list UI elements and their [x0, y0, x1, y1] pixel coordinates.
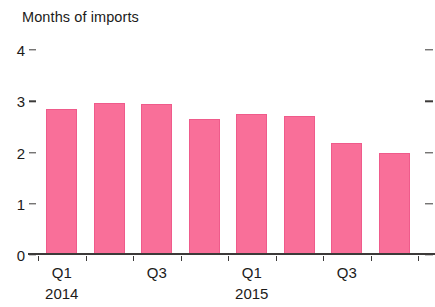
x-axis-year-label: 2014 [45, 285, 78, 302]
x-axis-tick-mark [38, 256, 39, 261]
y-axis-tick-mark [29, 203, 36, 204]
y-axis-tick-mark-right [425, 49, 433, 50]
x-axis-tick-label: Q3 [147, 264, 167, 281]
y-axis-tick-mark-right [425, 101, 433, 102]
x-axis-tick-mark [228, 256, 229, 261]
x-axis-baseline [28, 253, 435, 255]
bar [189, 119, 220, 255]
bars-layer [38, 50, 418, 255]
bar [236, 114, 267, 255]
x-axis-year-label: 2015 [235, 285, 268, 302]
x-axis-tick-label: Q1 [52, 264, 72, 281]
y-axis-tick-mark [29, 49, 36, 50]
bar [141, 104, 172, 255]
x-axis-tick-mark [86, 256, 87, 261]
y-axis-tick-label: 4 [17, 42, 25, 59]
x-axis-tick-label: Q3 [337, 264, 357, 281]
x-axis-tick-mark [371, 256, 372, 261]
chart-title: Months of imports [22, 9, 139, 25]
y-axis-tick-label: 3 [17, 93, 25, 110]
x-axis-tick-label: Q1 [242, 264, 262, 281]
bar [331, 143, 362, 255]
x-axis-tick-mark [133, 256, 134, 261]
bar [94, 103, 125, 255]
y-axis-tick-label: 0 [17, 247, 25, 264]
x-axis-tick-mark [418, 256, 419, 261]
y-axis-tick-label: 2 [17, 144, 25, 161]
y-axis-tick-mark-right [425, 152, 433, 153]
y-axis-tick-mark-right [425, 203, 433, 204]
bar [379, 153, 410, 255]
x-axis-tick-mark [181, 256, 182, 261]
bar [46, 109, 77, 255]
x-axis-tick-mark [323, 256, 324, 261]
x-axis-tick-mark [276, 256, 277, 261]
y-axis-tick-mark [29, 101, 36, 102]
bar [284, 116, 315, 255]
y-axis-tick-label: 1 [17, 195, 25, 212]
y-axis-tick-mark [29, 152, 36, 153]
plot-area: 01234 Q1Q3Q1Q320142015 [38, 50, 418, 255]
